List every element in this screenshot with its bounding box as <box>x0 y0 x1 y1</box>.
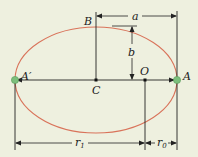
periapsis-dot-A <box>173 76 180 83</box>
focus-point-O <box>144 79 147 82</box>
diagram-svg: A′ A B C O a b r1 r0 <box>0 0 198 157</box>
label-r0: r0 <box>157 136 167 150</box>
center-point-C <box>95 79 98 82</box>
label-B: B <box>83 15 92 28</box>
label-r1: r1 <box>75 136 85 150</box>
apoapsis-dot-A-prime <box>11 76 18 83</box>
label-O: O <box>140 65 149 78</box>
label-C: C <box>92 84 101 97</box>
r1-subscript: 1 <box>80 142 84 150</box>
label-b: b <box>128 46 135 59</box>
label-A-prime: A′ <box>20 70 32 83</box>
label-A: A <box>182 70 191 83</box>
ellipse-orbit-diagram: A′ A B C O a b r1 r0 <box>0 0 198 157</box>
r0-subscript: 0 <box>162 142 167 150</box>
label-a: a <box>132 10 139 23</box>
